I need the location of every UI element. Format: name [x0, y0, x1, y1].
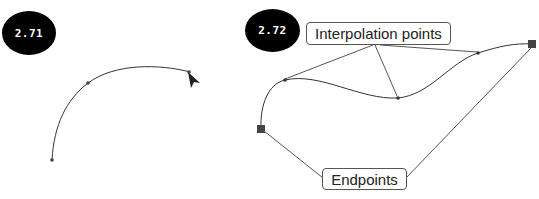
interpolation-point — [86, 81, 90, 85]
diagram-canvas: 2.71 2.72 Interpolation points Endpoints — [0, 0, 539, 199]
interpolation-point — [396, 96, 400, 100]
completed-curve — [261, 44, 532, 129]
endpoint-marker — [528, 40, 536, 48]
interpolation-points-label: Interpolation points — [306, 22, 451, 45]
mouse-cursor-icon — [188, 72, 200, 88]
endpoint-marker — [257, 125, 265, 133]
curve-in-progress — [52, 67, 190, 160]
start-point — [50, 158, 54, 162]
step-badge: 2.71 — [2, 11, 56, 55]
step-badge: 2.72 — [245, 9, 300, 52]
endpoints-label: Endpoints — [322, 168, 407, 190]
leader-lines — [264, 45, 531, 178]
